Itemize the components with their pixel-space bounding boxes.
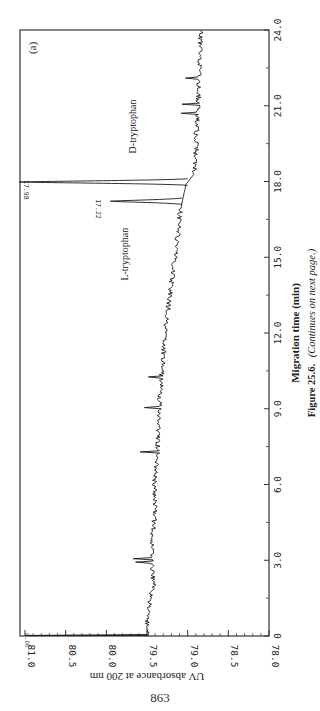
absorbance-tick-label: 78.5	[229, 645, 240, 668]
absorbance-tick-label: 80.0	[107, 645, 118, 668]
figure-caption: Figure 25.6. (Continues on next page.)	[306, 248, 318, 417]
peak-time-label: 17.98	[22, 180, 30, 200]
peak-d-tryptophan	[19, 178, 187, 185]
time-tick-label: 9.0	[272, 400, 283, 417]
peak-name-label: L-tryptophan	[119, 228, 130, 281]
time-tick-label: 6.0	[272, 476, 283, 493]
peak-l-tryptophan	[110, 198, 182, 205]
peak-name-label: D-tryptophan	[127, 100, 138, 154]
y-axis-title: UV absorbance at 200 nm	[89, 671, 204, 683]
absorbance-tick-label: 78.0	[270, 645, 281, 668]
electropherogram-trace	[133, 30, 203, 636]
caption-label: Figure 25.6.	[306, 364, 317, 418]
peak-time-label: 17.22	[94, 199, 102, 219]
absorbance-tick-label: 79.0	[189, 645, 200, 668]
plot-frame	[20, 30, 269, 636]
absorbance-tick-label: 79.5	[148, 645, 159, 668]
caption-note: (Continues on next page.)	[306, 248, 318, 357]
chromatogram-chart: 03.06.09.012.015.018.021.024.0 81.080.58…	[0, 0, 320, 711]
page-number: 863	[0, 690, 320, 706]
time-tick-label: 3.0	[272, 551, 283, 568]
injection-spike	[25, 634, 147, 635]
absorbance-tick-label: 81.0	[26, 645, 37, 668]
injection-label: 0.00	[24, 633, 31, 648]
time-tick-label: 0	[272, 633, 283, 639]
absorbance-tick-label: 80.5	[67, 645, 78, 668]
time-tick-label: 21.0	[272, 94, 283, 117]
panel-label: (a)	[26, 42, 39, 55]
time-tick-label: 24.0	[272, 18, 283, 41]
time-tick-label: 18.0	[272, 170, 283, 193]
time-tick-label: 15.0	[272, 246, 283, 269]
x-axis-title: Migration time (min)	[289, 283, 302, 383]
time-axis-ticks: 03.06.09.012.015.018.021.024.0	[264, 18, 283, 639]
time-tick-label: 12.0	[272, 321, 283, 344]
